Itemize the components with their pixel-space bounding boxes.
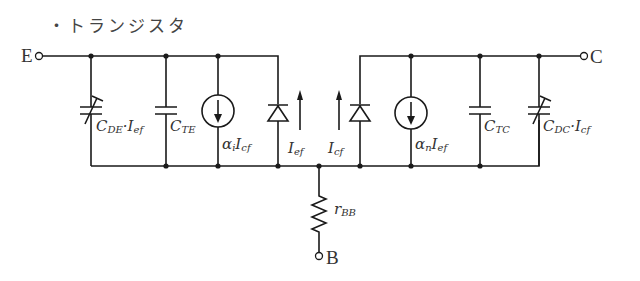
cde-label: CDE·Ief: [96, 117, 145, 135]
junction-dots: [88, 53, 541, 168]
collector-terminal-circle: [581, 53, 588, 60]
emitter-terminal: E: [21, 45, 43, 66]
capacitor-cdc: CDC·Icf: [528, 56, 592, 166]
diode-collector: Icf: [327, 90, 370, 166]
current-source-alpha-i: αiIcf: [202, 56, 253, 166]
rbb-label: rBB: [334, 200, 356, 218]
icf-label: Icf: [327, 139, 346, 157]
emitter-top-wire: [43, 56, 279, 104]
capacitor-cte: CTE: [155, 56, 196, 166]
capacitor-ctc: CTC: [469, 56, 510, 166]
base-label: B: [326, 247, 339, 268]
current-source-alpha-n: αnIef: [395, 56, 449, 166]
cdc-label: CDC·Icf: [543, 117, 592, 135]
bottom-bus-wire: [91, 120, 539, 166]
alpha-n-label: αnIef: [415, 135, 449, 153]
emitter-label: E: [21, 45, 33, 66]
emitter-terminal-circle: [36, 53, 43, 60]
diode-emitter: Ief: [268, 90, 306, 166]
diagram-title: ・トランジスタ: [48, 16, 188, 36]
base-terminal-circle: [316, 253, 323, 260]
collector-terminal: C: [581, 46, 603, 67]
collector-label: C: [590, 46, 603, 67]
cte-label: CTE: [170, 117, 196, 135]
resistor-rbb: rBB: [312, 166, 356, 252]
collector-top-wire: [360, 56, 581, 104]
alpha-i-label: αiIcf: [222, 135, 253, 153]
transistor-equivalent-circuit: ・トランジスタ E CDE·Ief CTE αiIcf: [0, 0, 640, 281]
ief-label: Ief: [287, 139, 306, 157]
ctc-label: CTC: [484, 117, 510, 135]
capacitor-cde: CDE·Ief: [80, 56, 145, 166]
